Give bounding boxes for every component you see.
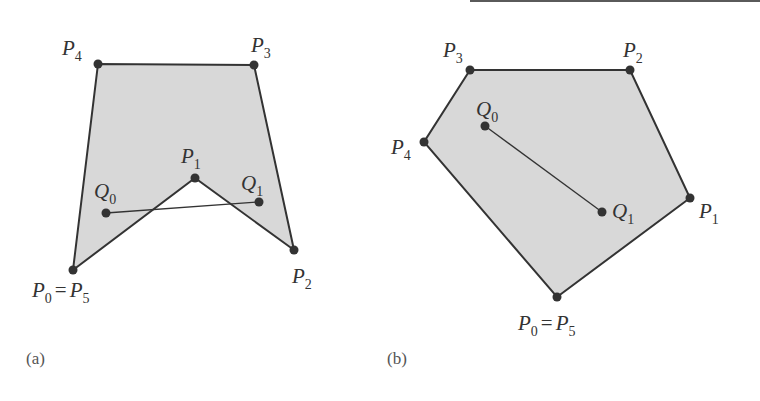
vertex-p2 <box>290 246 299 255</box>
vertex-label: P4 <box>61 36 82 64</box>
vertex-p3 <box>466 66 475 75</box>
polygon-diagrams: P4P3P1Q0Q1P2P0=P5(a)P3P2Q0P4Q1P1P0=P5(b) <box>0 0 760 401</box>
vertex-p0 <box>553 293 562 302</box>
vertex-label: P4 <box>390 135 411 163</box>
vertex-label: P0=P5 <box>517 311 576 339</box>
vertex-label: P1 <box>698 199 719 227</box>
point-q1 <box>598 208 607 217</box>
vertex-p1 <box>686 194 695 203</box>
vertex-label: P3 <box>250 33 271 61</box>
top-rule-line <box>470 0 760 2</box>
vertex-p4 <box>420 138 429 147</box>
point-q0 <box>102 209 111 218</box>
polygon-shape <box>424 70 690 297</box>
vertex-p2 <box>626 66 635 75</box>
vertex-p0 <box>69 266 78 275</box>
figure-caption: (b) <box>387 349 407 368</box>
vertex-label: P0=P5 <box>31 278 90 306</box>
figure-caption: (a) <box>26 349 45 368</box>
figure-b: P3P2Q0P4Q1P1P0=P5(b) <box>387 38 719 368</box>
figure-a: P4P3P1Q0Q1P2P0=P5(a) <box>26 33 312 368</box>
vertex-label: P2 <box>622 38 643 66</box>
vertex-p1 <box>191 174 200 183</box>
vertex-label: P3 <box>442 38 463 66</box>
vertex-p4 <box>94 60 103 69</box>
point-q0 <box>481 122 490 131</box>
vertex-p3 <box>250 61 259 70</box>
figure-canvas: P4P3P1Q0Q1P2P0=P5(a)P3P2Q0P4Q1P1P0=P5(b) <box>0 0 760 401</box>
vertex-label: P2 <box>291 264 312 292</box>
